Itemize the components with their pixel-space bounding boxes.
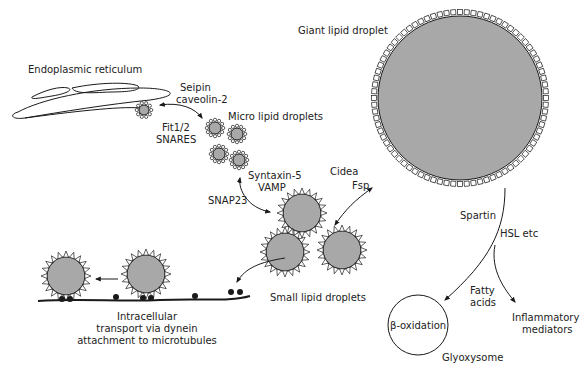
- label-transport-1: Intracellular: [72, 311, 222, 323]
- label-seipin: Seipin: [180, 82, 211, 94]
- label-caveolin: caveolin-2: [176, 94, 228, 106]
- label-fatty2: acids: [470, 297, 496, 309]
- transport-droplets: [41, 249, 171, 301]
- lipid-droplet-diagram: Endoplasmic reticulum Seipin caveolin-2 …: [0, 0, 586, 368]
- label-fit: Fit1/2: [162, 122, 190, 134]
- label-glyoxysome: Glyoxysome: [442, 352, 503, 364]
- label-vamp: VAMP: [258, 182, 286, 194]
- label-fsp: Fsp: [352, 180, 369, 192]
- label-micro: Micro lipid droplets: [228, 111, 323, 123]
- label-inflam2: mediators: [522, 324, 573, 336]
- label-fatty1: Fatty: [470, 285, 495, 297]
- label-syntaxin: Syntaxin-5: [248, 170, 302, 182]
- label-transport-3: attachment to microtubules: [72, 335, 222, 347]
- label-small: Small lipid droplets: [270, 292, 366, 304]
- label-hsl: HSL etc: [500, 228, 538, 240]
- label-transport-2: transport via dynein: [72, 323, 222, 335]
- giant-lipid-droplet: [378, 16, 542, 180]
- budding-droplet: [135, 102, 153, 119]
- micro-lipid-droplets: [205, 118, 249, 170]
- label-snap23: SNAP23: [208, 195, 247, 207]
- label-giant: Giant lipid droplet: [298, 25, 388, 37]
- label-inflam1: Inflammatory: [512, 312, 579, 324]
- label-snares: SNARES: [156, 134, 196, 146]
- label-cidea: Cidea: [330, 166, 358, 178]
- label-er: Endoplasmic reticulum: [28, 64, 142, 76]
- label-beta-oxidation: β-oxidation: [390, 320, 446, 332]
- label-spartin: Spartin: [460, 210, 496, 222]
- small-lipid-droplets: [260, 188, 367, 277]
